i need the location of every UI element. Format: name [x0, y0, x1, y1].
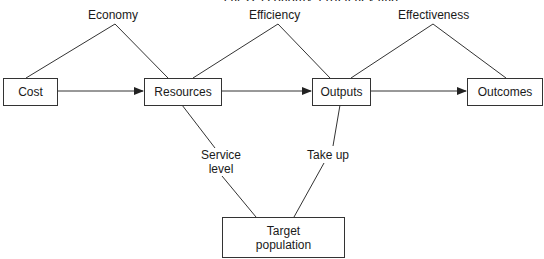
take-up-line-top [333, 105, 340, 146]
node-target-population: Target population [222, 217, 345, 258]
service-level-line-top [182, 105, 215, 148]
efficiency-lines [193, 24, 330, 78]
label-take-up: Take up [307, 148, 349, 162]
service-level-line-bottom [222, 176, 256, 217]
node-outcomes: Outcomes [467, 78, 543, 106]
label-economy: Economy [88, 8, 138, 22]
node-resources: Resources [144, 78, 222, 106]
label-effectiveness: Effectiveness [398, 8, 469, 22]
take-up-line-bottom [294, 163, 324, 217]
node-outputs: Outputs [312, 78, 371, 106]
node-cost: Cost [3, 78, 58, 106]
label-service-level: Service level [199, 148, 243, 176]
cropped-title: …eness, economy, efficiency and effectiv… [210, 0, 460, 1]
economy-lines [26, 24, 168, 78]
effectiveness-lines [351, 24, 506, 78]
label-efficiency: Efficiency [249, 8, 300, 22]
